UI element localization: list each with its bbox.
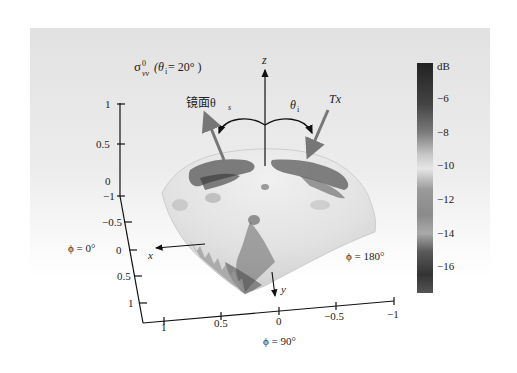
svg-text:0.5: 0.5 — [214, 317, 228, 329]
svg-text:1: 1 — [128, 297, 134, 309]
svg-text:−1: −1 — [387, 308, 399, 320]
svg-text:1: 1 — [105, 98, 111, 110]
svg-text:−0.5: −0.5 — [102, 216, 122, 228]
tx-label: Tx — [329, 92, 342, 106]
svg-text:0.5: 0.5 — [117, 270, 131, 282]
svg-text:0: 0 — [142, 59, 146, 68]
svg-text:1: 1 — [161, 321, 167, 333]
svg-text:−14: −14 — [437, 227, 455, 239]
svg-text:= 20° ): = 20° ) — [168, 60, 202, 74]
phi-90-label: ϕ = 90° — [263, 335, 296, 347]
svg-text:x: x — [147, 249, 153, 261]
svg-text:(θ: (θ — [154, 60, 164, 74]
svg-text:θ: θ — [290, 98, 296, 112]
svg-text:−1: −1 — [103, 190, 115, 202]
svg-text:σ: σ — [134, 59, 141, 74]
colorbar-unit: dB — [437, 60, 450, 72]
chart-canvas: σ 0 vv (θ i = 20° ) z — [0, 0, 517, 373]
svg-text:−10: −10 — [437, 159, 455, 171]
svg-text:0: 0 — [105, 175, 111, 187]
svg-text:vv: vv — [142, 69, 150, 78]
svg-text:s: s — [228, 103, 231, 112]
phi-0-label: ϕ = 0° — [68, 242, 95, 254]
bottom-axis: 1 0.5 0 −0.5 −1 — [143, 297, 399, 333]
svg-text:0: 0 — [276, 315, 282, 327]
svg-text:镜面θ: 镜面θ — [186, 95, 216, 110]
phi-180-label: ϕ = 180° — [346, 250, 384, 262]
svg-text:−12: −12 — [437, 193, 454, 205]
svg-text:−8: −8 — [437, 126, 449, 138]
svg-text:−16: −16 — [437, 260, 455, 272]
svg-text:0: 0 — [116, 244, 122, 256]
svg-text:−0.5: −0.5 — [324, 310, 344, 322]
svg-text:0.5: 0.5 — [96, 138, 110, 150]
svg-text:z: z — [261, 53, 267, 67]
svg-text:−6: −6 — [437, 92, 449, 104]
scattering-figure: σ 0 vv (θ i = 20° ) z — [0, 0, 517, 373]
svg-text:y: y — [280, 283, 286, 295]
